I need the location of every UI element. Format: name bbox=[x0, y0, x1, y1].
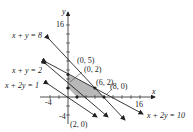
point-label-8-0: (8, 0) bbox=[110, 82, 128, 91]
label-x-plus-y-2: x + y = 2 bbox=[11, 66, 42, 75]
line-x-plus-y-8 bbox=[49, 39, 125, 120]
y-tick-neg4: -4 bbox=[59, 112, 66, 121]
label-x-plus-y-8: x + y = 8 bbox=[11, 31, 42, 40]
point-label-2-0: (2, 0) bbox=[70, 120, 88, 129]
feasible-region-chart: y x 16 -4 16 -4 x + y = 8 x + y = 2 x + … bbox=[0, 0, 193, 132]
y-axis-label: y bbox=[61, 7, 66, 16]
x-axis-label: x bbox=[151, 87, 156, 96]
x-tick-neg4: -4 bbox=[45, 98, 52, 107]
label-x-plus-2y-1: x + 2y = 1 bbox=[4, 81, 39, 90]
point-label-0-5: (0, 5) bbox=[77, 56, 95, 65]
label-x-plus-2y-10: x + 2y = 10 bbox=[146, 111, 185, 120]
point-label-0-2: (0, 2) bbox=[84, 65, 102, 74]
x-tick-16: 16 bbox=[135, 100, 143, 109]
y-tick-16: 16 bbox=[56, 20, 64, 29]
